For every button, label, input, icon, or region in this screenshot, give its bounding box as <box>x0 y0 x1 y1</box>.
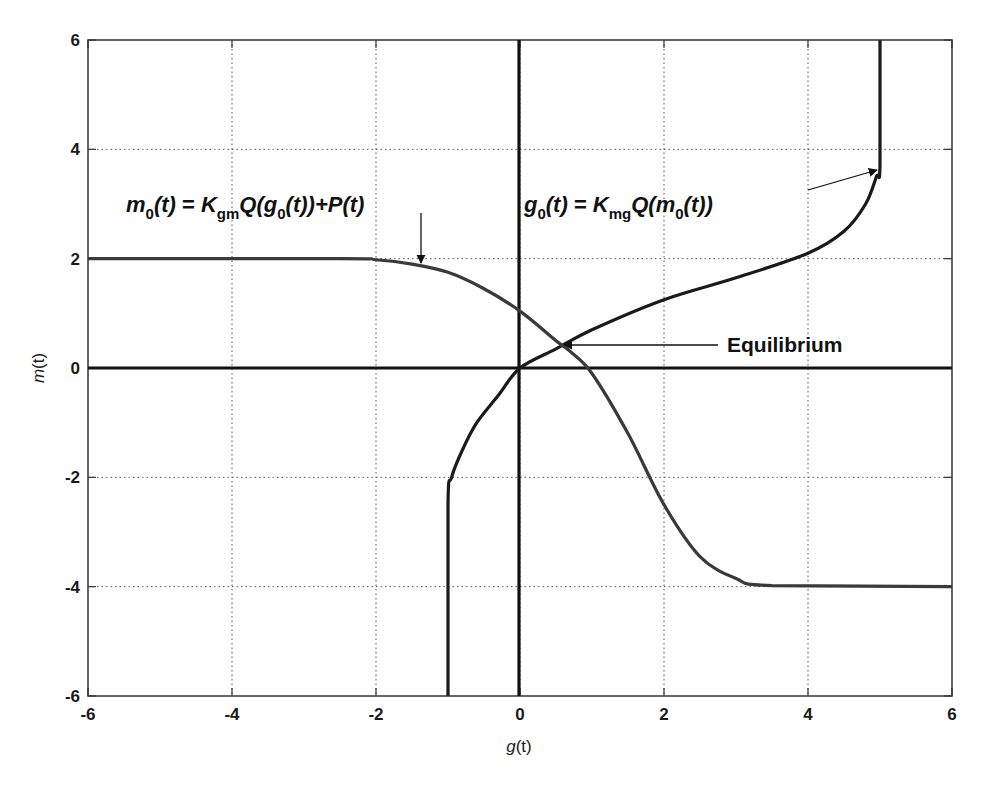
x-tick-label: -6 <box>80 705 95 724</box>
y-tick-label: 4 <box>71 140 81 159</box>
y-tick-label: 0 <box>71 359 80 378</box>
y-tick-labels: 6420-2-4-6 <box>65 31 81 706</box>
y-tick-label: 2 <box>71 250 80 269</box>
equilibrium-label: Equilibrium <box>727 333 843 356</box>
y-axis-label: m(t) <box>29 353 48 383</box>
equilibrium-chart: -6-4-20246 6420-2-4-6 g(t) m(t) m0(t) = … <box>0 0 988 790</box>
x-tick-label: -4 <box>224 705 240 724</box>
x-tick-label: -2 <box>368 705 383 724</box>
y-tick-label: -6 <box>65 687 80 706</box>
y-tick-label: -2 <box>65 468 80 487</box>
y-tick-label: 6 <box>71 31 80 50</box>
x-tick-labels: -6-4-20246 <box>80 705 956 724</box>
x-tick-label: 0 <box>515 705 524 724</box>
x-axis-label: g(t) <box>506 737 532 756</box>
x-tick-label: 2 <box>659 705 668 724</box>
x-tick-label: 6 <box>947 705 956 724</box>
x-tick-label: 4 <box>803 705 813 724</box>
y-tick-label: -4 <box>65 578 81 597</box>
